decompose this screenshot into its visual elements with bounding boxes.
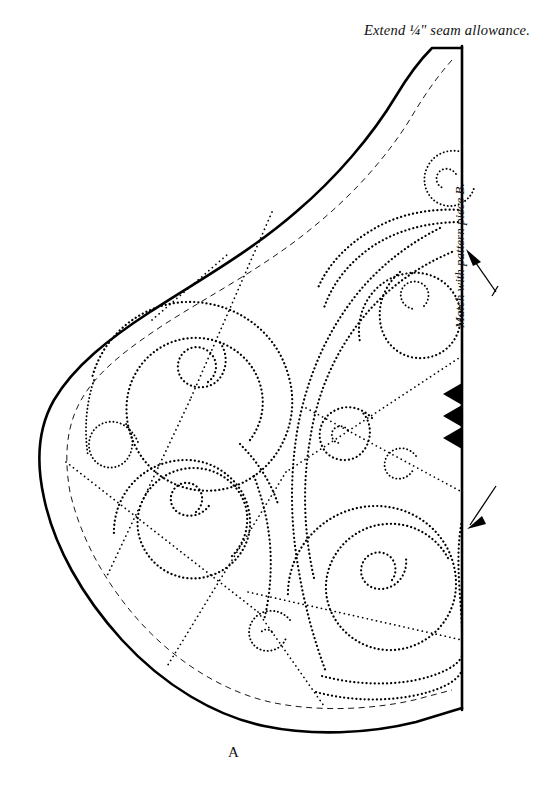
spiral-lower-right-curl bbox=[361, 552, 406, 589]
guide-line-7 bbox=[306, 408, 462, 492]
spiral-center-left-curl bbox=[178, 340, 226, 387]
pattern-sheet: Extend ¼" seam allowance. bbox=[0, 0, 538, 799]
spiral-lower-left-curl bbox=[171, 483, 210, 516]
spiral-upper-right bbox=[359, 272, 461, 358]
curl-lower-center-2 bbox=[260, 630, 272, 634]
guide-line-8 bbox=[248, 592, 462, 640]
notch-triangle-1 bbox=[443, 383, 462, 405]
guide-line-6 bbox=[166, 472, 286, 668]
guide-line-3 bbox=[66, 462, 258, 612]
hem-arc-2 bbox=[322, 656, 462, 683]
curl-lower-center bbox=[249, 611, 290, 651]
guide-line-5 bbox=[286, 356, 462, 472]
notch-triangle-2 bbox=[443, 405, 462, 427]
quilting-guide-lines bbox=[66, 212, 462, 706]
callout-arrow-top-icon bbox=[466, 249, 481, 266]
guide-line-2 bbox=[106, 400, 190, 578]
left-mid-arc bbox=[86, 380, 94, 456]
pattern-drawing bbox=[0, 0, 538, 799]
spiral-mid-right bbox=[320, 407, 372, 460]
pattern-piece-label: A bbox=[228, 744, 239, 761]
scroll-connector bbox=[254, 476, 271, 620]
seam-line bbox=[67, 60, 452, 709]
scroll-band-upper bbox=[318, 210, 462, 288]
scroll-band-upper-2 bbox=[324, 222, 462, 308]
guide-line-4 bbox=[258, 612, 324, 706]
spiral-upper-right-curl bbox=[401, 282, 429, 309]
cutting-line-outline bbox=[39, 48, 462, 732]
spiral-mid-right-curl bbox=[332, 426, 348, 443]
callout-arrow-bottom-icon bbox=[467, 516, 486, 529]
notch-triangle-3 bbox=[443, 427, 462, 449]
spiral-top-right-curl bbox=[437, 169, 456, 188]
stem-main-sweep bbox=[292, 228, 440, 672]
scroll-connector-2 bbox=[240, 444, 278, 504]
curl-left-small bbox=[89, 422, 138, 468]
match-notches bbox=[443, 383, 462, 449]
quilting-motifs bbox=[86, 151, 474, 700]
hem-arc-1 bbox=[316, 670, 462, 699]
spiral-top-right bbox=[424, 151, 474, 206]
curl-right-small bbox=[385, 448, 416, 479]
match-callout bbox=[466, 249, 498, 529]
seam-allowance-note: Extend ¼" seam allowance. bbox=[364, 22, 530, 39]
